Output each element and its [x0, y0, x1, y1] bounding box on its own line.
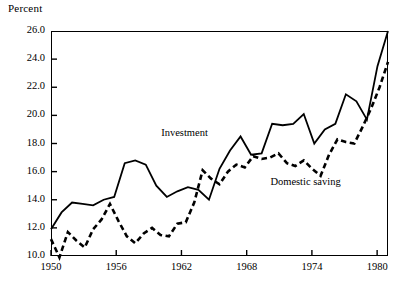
series-line-investment	[51, 31, 388, 229]
chart-canvas	[0, 0, 401, 286]
y-tick-label: 20.0	[5, 108, 45, 119]
series-label-domestic-saving: Domestic saving	[270, 176, 340, 187]
y-tick-label: 12.0	[5, 221, 45, 232]
y-tick-label: 26.0	[5, 24, 45, 35]
data-series-group	[51, 31, 388, 257]
y-tick-label: 16.0	[5, 165, 45, 176]
x-tick-label: 1950	[26, 261, 76, 272]
x-tick-label: 1980	[352, 261, 401, 272]
x-tick-label: 1962	[156, 261, 206, 272]
series-line-domestic-saving	[51, 62, 388, 257]
x-tick-label: 1974	[287, 261, 337, 272]
y-tick-label: 22.0	[5, 80, 45, 91]
y-tick-label: 24.0	[5, 52, 45, 63]
chart-figure: Percent 26.024.022.020.018.016.014.012.0…	[0, 0, 401, 286]
x-tick-label: 1956	[91, 261, 141, 272]
y-tick-label: 10.0	[5, 249, 45, 260]
x-tick-label: 1968	[222, 261, 272, 272]
series-label-investment: Investment	[161, 127, 208, 138]
y-tick-label: 18.0	[5, 137, 45, 148]
y-tick-label: 14.0	[5, 193, 45, 204]
